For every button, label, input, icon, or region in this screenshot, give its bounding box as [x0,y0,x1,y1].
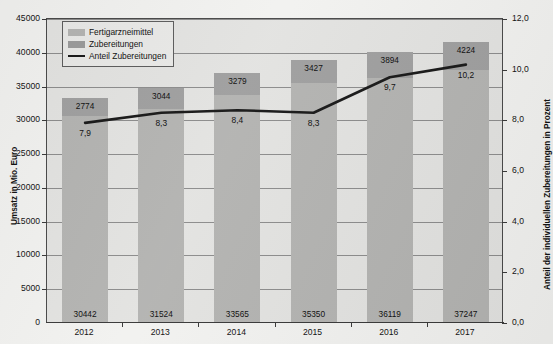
x-axis-label-2016: 2016 [354,327,424,337]
y-axis-left-tick-label: 5000 [0,283,40,293]
y-axis-right-tick-label: 0,0 [512,317,542,327]
chart-legend: FertigarzneimittelZubereitungenAnteil Zu… [62,21,174,67]
x-axis-label-2012: 2012 [49,327,119,337]
line-value-label: 7,9 [67,128,103,138]
y-axis-left-tick-label: 25000 [0,148,40,158]
legend-item: Zubereitungen [68,38,166,50]
y-axis-right-tick-label: 10,0 [512,64,542,74]
legend-swatch-bar-dark-icon [68,41,85,48]
y-axis-left-tick-label: 10000 [0,249,40,259]
y-axis-left-tick-label: 35000 [0,81,40,91]
line-value-label: 8,3 [296,118,332,128]
x-axis-tick [275,322,276,327]
x-axis-tick [122,322,123,327]
legend-label: Zubereitungen [89,39,143,49]
x-axis-tick [427,322,428,327]
y-axis-left-tick-label: 40000 [0,47,40,57]
chart-container: Umsatz in Mio. Euro Anteil der individue… [0,0,553,344]
y-axis-right-tick-label: 4,0 [512,216,542,226]
legend-swatch-line-black-icon [68,55,85,58]
line-value-label: 8,4 [219,115,255,125]
y-axis-left-tick-label: 30000 [0,114,40,124]
legend-label: Fertigarzneimittel [89,27,153,37]
y-axis-right-tick-label: 6,0 [512,165,542,175]
y-axis-left-tick-label: 15000 [0,216,40,226]
legend-label: Anteil Zubereitungen [89,51,166,61]
x-axis-label-2015: 2015 [278,327,348,337]
legend-item: Anteil Zubereitungen [68,50,166,62]
y-axis-left-tick-label: 45000 [0,13,40,23]
x-axis-label-2013: 2013 [125,327,195,337]
x-axis-tick [351,322,352,327]
line-value-label: 9,7 [372,82,408,92]
y-axis-left-tick-label: 0 [0,317,40,327]
y-axis-left-tick-label: 20000 [0,182,40,192]
x-axis-label-2017: 2017 [430,327,500,337]
y-axis-right-tick-label: 12,0 [512,13,542,23]
y-axis-right-title: Anteil der individuellen Zubereitungen i… [543,99,552,290]
legend-item: Fertigarzneimittel [68,26,166,38]
line-value-label: 8,3 [143,118,179,128]
y-axis-right-tick [502,323,507,324]
x-axis-label-2014: 2014 [201,327,271,337]
y-axis-right-tick-label: 8,0 [512,114,542,124]
legend-swatch-bar-light-icon [68,29,85,36]
y-axis-right-tick-label: 2,0 [512,266,542,276]
line-value-label: 10,2 [448,70,484,80]
x-axis-tick [198,322,199,327]
